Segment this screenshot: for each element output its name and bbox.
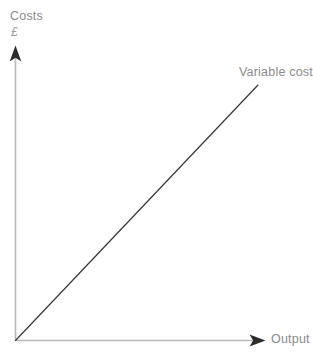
- variable-costs-line: [16, 85, 259, 341]
- x-axis-title: Output: [271, 332, 310, 346]
- chart-canvas: [0, 0, 313, 352]
- y-axis-title: Costs: [10, 9, 43, 23]
- variable-costs-chart: Costs £ Variable costs Output: [0, 0, 313, 352]
- series-label-variable-costs: Variable costs: [239, 65, 313, 79]
- y-axis-unit-label: £: [11, 25, 18, 39]
